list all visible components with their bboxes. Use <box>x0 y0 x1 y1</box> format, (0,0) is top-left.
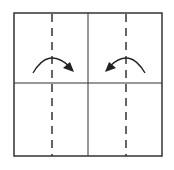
origami-diagram <box>0 0 174 170</box>
